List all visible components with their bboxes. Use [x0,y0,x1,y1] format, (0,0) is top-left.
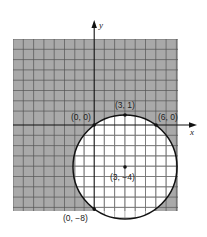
label-0-neg8: (0, −8) [63,213,88,223]
x-axis-label: x [189,127,194,137]
label-3-1: (3, 1) [115,100,135,110]
point-center [123,165,127,169]
point-6-0 [154,123,158,127]
label-center: (3, −4) [110,172,135,182]
label-6-0: (6, 0) [158,112,178,122]
label-0-0: (0, 0) [71,112,91,122]
y-axis-label: y [98,20,103,30]
y-axis-arrow-icon [92,20,97,28]
point-3-1 [123,113,127,117]
point-0-neg8 [92,207,96,211]
point-0-0 [92,123,96,127]
coordinate-diagram: y x (3, 1) (0, 0) (6, 0) (3, −4) (0, −8) [0,0,207,237]
